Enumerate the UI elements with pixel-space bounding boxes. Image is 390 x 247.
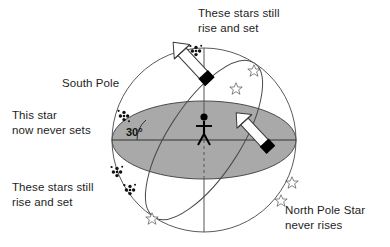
label-south-pole: South Pole xyxy=(62,76,119,91)
label-these-stars-rise-and-set-top: These stars still rise and set xyxy=(198,6,280,35)
outline-star xyxy=(230,83,242,94)
circumpolar-star xyxy=(111,166,124,178)
label-these-stars-rise-and-set-bottom: These stars still rise and set xyxy=(12,180,94,209)
angle-label-thirty-degrees: 30° xyxy=(126,126,143,138)
circumpolar-star xyxy=(123,184,136,196)
label-this-star-now-never-sets: This star now never sets xyxy=(12,108,91,137)
motion-arrow-upper xyxy=(165,35,217,89)
celestial-sphere-diagram: These stars still rise and set South Pol… xyxy=(0,0,390,247)
outline-star xyxy=(146,213,158,224)
label-north-pole-star-never-rises: North Pole Star never rises xyxy=(285,203,365,232)
